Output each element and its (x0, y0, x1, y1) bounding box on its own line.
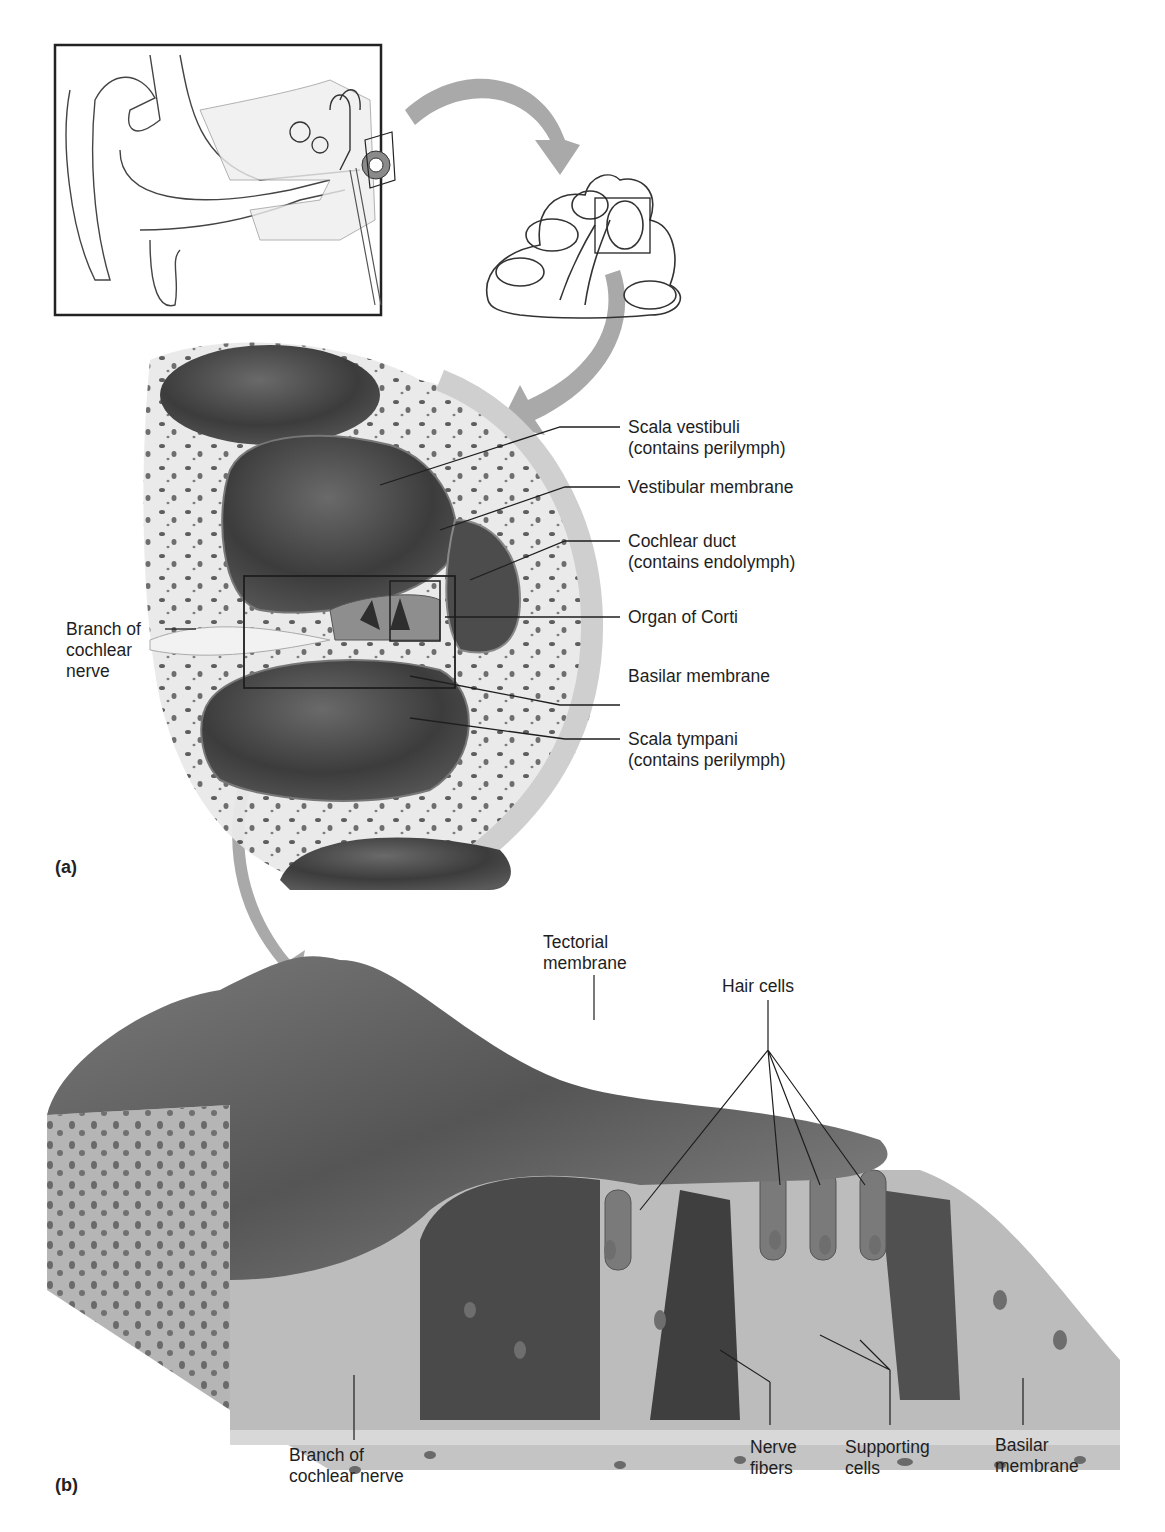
ear-inset (55, 45, 395, 315)
label-line: (contains perilymph) (628, 750, 786, 771)
cochlea-figure (0, 0, 1165, 1532)
panel-label-b: (b) (55, 1475, 78, 1496)
label-line: cochlear (66, 640, 141, 661)
label-supporting-cells: Supporting cells (845, 1437, 930, 1479)
label-basilar-membrane-a: Basilar membrane (628, 666, 770, 687)
label-vestibular-membrane: Vestibular membrane (628, 477, 793, 498)
label-cochlear-duct: Cochlear duct (contains endolymph) (628, 531, 795, 573)
label-line: Scala vestibuli (628, 417, 786, 438)
label-line: Supporting (845, 1437, 930, 1458)
label-scala-vestibuli: Scala vestibuli (contains perilymph) (628, 417, 786, 459)
label-hair-cells: Hair cells (722, 976, 794, 997)
organ-of-corti-block (47, 956, 1120, 1474)
label-organ-of-corti: Organ of Corti (628, 607, 738, 628)
label-line: Organ of Corti (628, 607, 738, 628)
label-line: Basilar (995, 1435, 1079, 1456)
label-line: Hair cells (722, 976, 794, 997)
label-line: Branch of (66, 619, 141, 640)
label-line: Basilar membrane (628, 666, 770, 687)
label-line: fibers (750, 1458, 797, 1479)
label-line: Scala tympani (628, 729, 786, 750)
label-line: Cochlear duct (628, 531, 795, 552)
label-branch-cochlear-nerve-a: Branch of cochlear nerve (66, 619, 141, 682)
cochlea-spiral (487, 175, 681, 318)
label-line: membrane (995, 1456, 1079, 1477)
cochlea-section (143, 343, 620, 890)
arrow-inset-to-cochlea (405, 79, 580, 175)
label-line: Tectorial (543, 932, 627, 953)
label-line: (contains perilymph) (628, 438, 786, 459)
label-line: membrane (543, 953, 627, 974)
label-line: (contains endolymph) (628, 552, 795, 573)
label-line: cochlear nerve (289, 1466, 404, 1487)
label-basilar-membrane-b: Basilar membrane (995, 1435, 1079, 1477)
label-line: nerve (66, 661, 141, 682)
label-branch-cochlear-nerve-b: Branch of cochlear nerve (289, 1445, 404, 1487)
label-line: Branch of (289, 1445, 404, 1466)
label-tectorial-membrane: Tectorial membrane (543, 932, 627, 974)
panel-label-a: (a) (55, 857, 77, 878)
label-scala-tympani: Scala tympani (contains perilymph) (628, 729, 786, 771)
label-line: cells (845, 1458, 930, 1479)
label-line: Nerve (750, 1437, 797, 1458)
label-line: Vestibular membrane (628, 477, 793, 498)
label-nerve-fibers: Nerve fibers (750, 1437, 797, 1479)
